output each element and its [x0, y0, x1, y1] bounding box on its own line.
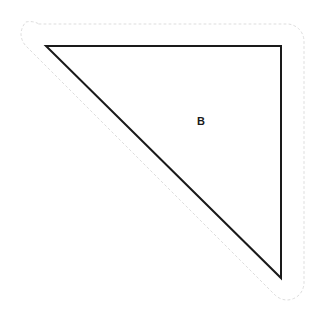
shape-label-b: B [197, 116, 205, 127]
triangle-shape-b[interactable] [46, 46, 281, 278]
figure-canvas: B [0, 0, 320, 319]
geometry-figure [0, 0, 320, 319]
